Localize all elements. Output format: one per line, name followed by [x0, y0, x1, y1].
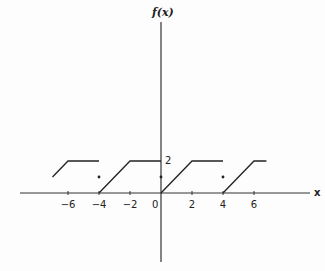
- graph-segment: [53, 161, 100, 177]
- x-tick-label: −4: [92, 199, 107, 210]
- x-tick-label: −2: [123, 199, 138, 210]
- axes: [20, 22, 310, 262]
- y-tick-label: 2: [165, 155, 171, 166]
- x-tick-label: 2: [189, 199, 195, 210]
- x-tick-label: 0: [152, 199, 158, 210]
- graph-segment: [99, 161, 161, 193]
- y-axis-label: f(x): [151, 6, 174, 19]
- plot-area: −6−4−202462 f(x) x: [0, 0, 325, 271]
- x-axis-label: x: [314, 187, 321, 198]
- x-tick-label: 4: [220, 199, 226, 210]
- point-marker: [222, 176, 225, 179]
- point-marker: [98, 176, 101, 179]
- chart: −6−4−202462 f(x) x: [0, 0, 325, 271]
- function-graph: [53, 161, 267, 193]
- x-tick-label: 6: [251, 199, 257, 210]
- x-tick-label: −6: [61, 199, 76, 210]
- graph-segment: [223, 161, 266, 193]
- point-marker: [160, 176, 163, 179]
- tick-labels: −6−4−202462: [61, 155, 258, 210]
